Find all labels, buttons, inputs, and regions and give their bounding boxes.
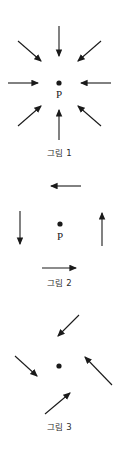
figures-root: P 그림 1 P 그림 2 [0, 0, 119, 454]
arrow-left-down-right [15, 356, 37, 376]
arrow-top-right-inward [78, 41, 101, 61]
point-label-p: P [49, 88, 69, 100]
center-point-p [56, 80, 61, 85]
center-point [56, 363, 61, 368]
figure-3: 그림 3 [0, 290, 119, 454]
arrow-right-up-left [85, 357, 112, 385]
figure-1-caption: 그림 1 [0, 146, 119, 158]
center-point-p [57, 221, 62, 226]
arrow-top-left-inward [18, 41, 41, 61]
arrow-lower-up-right [45, 393, 70, 414]
figure-1-diagram [0, 0, 119, 160]
figure-2-caption: 그림 2 [0, 276, 119, 288]
figure-1: P 그림 1 [0, 0, 119, 160]
arrow-bottom-right-inward [78, 106, 101, 126]
arrow-bottom-left-inward [18, 106, 41, 126]
figure-3-caption: 그림 3 [0, 420, 119, 432]
figure-2: P 그림 2 [0, 160, 119, 290]
arrow-upper-down-left [58, 315, 79, 336]
figure-2-diagram [0, 160, 119, 290]
point-label-p: P [50, 230, 70, 242]
